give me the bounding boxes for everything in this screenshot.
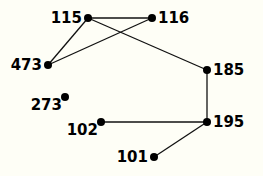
node-101	[150, 153, 158, 161]
node-label-101: 101	[117, 148, 148, 166]
edge-195-101	[154, 122, 207, 157]
node-273	[61, 93, 69, 101]
node-185	[203, 66, 211, 74]
node-115	[84, 14, 92, 22]
node-116	[148, 14, 156, 22]
node-label-273: 273	[31, 96, 62, 114]
node-label-473: 473	[11, 56, 42, 74]
network-graph: 115116473185273102195101	[0, 0, 263, 176]
node-label-116: 116	[158, 9, 189, 27]
node-label-185: 185	[213, 61, 244, 79]
graph-labels: 115116473185273102195101	[11, 9, 245, 166]
node-102	[97, 118, 105, 126]
node-473	[44, 61, 52, 69]
node-label-115: 115	[51, 9, 82, 27]
node-label-102: 102	[67, 121, 98, 139]
node-label-195: 195	[213, 113, 244, 131]
node-195	[203, 118, 211, 126]
